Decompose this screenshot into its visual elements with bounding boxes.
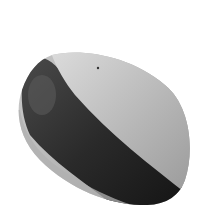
seed-image [0, 0, 211, 211]
photo-canvas [0, 0, 211, 211]
seed [0, 0, 211, 211]
